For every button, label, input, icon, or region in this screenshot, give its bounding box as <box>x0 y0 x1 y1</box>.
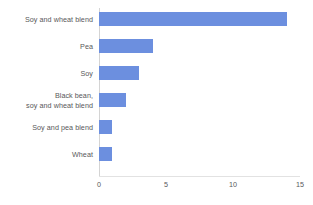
bar-row: Soy and pea blend <box>0 114 313 141</box>
category-label: Soy and pea blend <box>0 114 93 141</box>
bar <box>99 147 112 161</box>
bar-row: Soy <box>0 60 313 87</box>
bar-track <box>99 6 300 33</box>
x-axis-tick-label: 10 <box>229 180 237 190</box>
bar-track <box>99 60 300 87</box>
bar <box>99 39 153 53</box>
category-label: Pea <box>0 33 93 60</box>
category-label: Wheat <box>0 141 93 168</box>
bar <box>99 66 139 80</box>
x-axis-tick-label: 5 <box>164 180 168 190</box>
category-label-line: Pea <box>80 42 93 51</box>
category-axis-line <box>99 176 300 177</box>
category-label: Soy and wheat blend <box>0 6 93 33</box>
category-label-line: Wheat <box>72 150 93 159</box>
bar-track <box>99 87 300 114</box>
bar-track <box>99 141 300 168</box>
category-label-line: Soy and wheat blend <box>25 15 93 24</box>
bar-row: Pea <box>0 33 313 60</box>
x-axis-tick-label: 0 <box>97 180 101 190</box>
category-label: Black bean,soy and wheat blend <box>0 87 93 114</box>
bar <box>99 120 112 134</box>
bar-track <box>99 33 300 60</box>
horizontal-bar-chart: Soy and wheat blendPeaSoyBlack bean,soy … <box>0 0 313 205</box>
category-label-line: soy and wheat blend <box>26 101 93 110</box>
category-label-line: Soy <box>80 69 93 78</box>
bar <box>99 12 287 26</box>
x-axis-tick-label: 15 <box>296 180 304 190</box>
bar-row: Black bean,soy and wheat blend <box>0 87 313 114</box>
bar-row: Soy and wheat blend <box>0 6 313 33</box>
bar-row: Wheat <box>0 141 313 168</box>
bar <box>99 93 126 107</box>
category-label-line: Black bean, <box>55 91 93 100</box>
bar-track <box>99 114 300 141</box>
category-label: Soy <box>0 60 93 87</box>
category-label-line: Soy and pea blend <box>32 123 93 132</box>
x-axis-tick-labels: 051015 <box>0 180 313 200</box>
